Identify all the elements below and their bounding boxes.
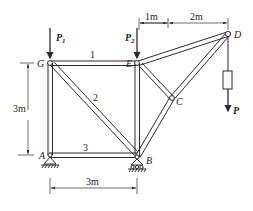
joint-D	[225, 31, 230, 36]
load-label-P1: P1	[56, 32, 66, 45]
hanging-weight	[223, 36, 232, 111]
node-label-B: B	[146, 155, 152, 166]
joint-E	[135, 61, 140, 66]
member-label-2: 2	[93, 92, 98, 103]
support-B-roller	[128, 159, 146, 172]
load-label-P: P	[233, 105, 240, 116]
member-2-GB	[51, 63, 138, 156]
member-EC	[139, 63, 174, 100]
node-label-E: E	[125, 58, 132, 69]
dim-label-width-3m: 3m	[86, 176, 99, 187]
member-CD	[170, 33, 230, 100]
node-label-C: C	[176, 96, 183, 107]
joint-G	[48, 61, 53, 66]
member-EB	[135, 63, 140, 157]
dim-label-1m: 1m	[145, 11, 158, 22]
member-CB	[136, 97, 174, 158]
dim-label-2m: 2m	[190, 11, 203, 22]
member-GA	[48, 63, 53, 155]
dim-label-height-3m: 3m	[13, 103, 26, 114]
node-label-G: G	[37, 58, 44, 69]
joint-C	[170, 96, 175, 101]
truss-diagram: G E A B C D 1 2 3 P1 P2 P 1m 2m 3m 3m	[0, 0, 253, 211]
member-3-AB	[50, 153, 137, 158]
member-1-GE	[50, 61, 137, 66]
member-label-1: 1	[90, 49, 95, 60]
member-ED	[138, 32, 228, 66]
truss-members	[48, 32, 230, 158]
load-label-P2: P2	[125, 32, 135, 45]
member-label-3: 3	[83, 142, 88, 153]
node-label-D: D	[233, 29, 242, 40]
node-label-A: A	[38, 150, 46, 161]
